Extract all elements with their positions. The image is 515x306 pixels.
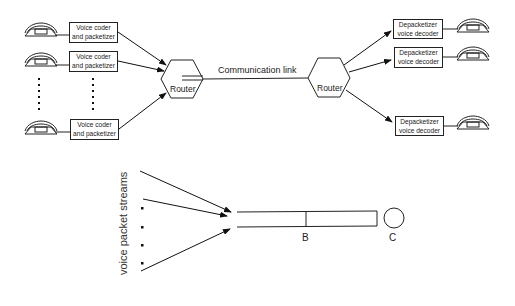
server-label-c: C (389, 232, 396, 243)
ingress-router-label: Router (170, 84, 196, 94)
stream-ellipsis-dots (141, 207, 144, 265)
depacketizer-decoder-box: Depacketizer voice decoder (395, 116, 444, 136)
queue-buffer (237, 211, 377, 227)
server-circle (384, 208, 404, 228)
voice-coder-packetizer-box: Voice coder and packetizer (69, 51, 118, 72)
telephone-icon (25, 23, 57, 36)
depacketizer-decoder-box: Depacketizer voice decoder (393, 19, 443, 39)
voice-packet-streams-label: voice packet streams (117, 172, 129, 275)
diagram-canvas (0, 0, 515, 306)
communication-link-line (203, 78, 308, 79)
telephone-icon (457, 116, 489, 129)
ellipsis-dots-middle (92, 78, 94, 110)
egress-router-label: Router (317, 83, 343, 93)
telephone-icon (25, 121, 57, 134)
depacketizer-decoder-box: Depacketizer voice decoder (394, 47, 443, 68)
voice-coder-packetizer-box: Voice coder and packetizer (69, 22, 118, 43)
communication-link-label: Communication link (218, 65, 297, 75)
buffer-label-b: B (302, 232, 309, 243)
telephone-icon (25, 53, 57, 66)
telephone-icon (457, 47, 489, 60)
voice-coder-packetizer-box: Voice coder and packetizer (70, 119, 119, 140)
ellipsis-dots-left (38, 78, 40, 110)
telephone-icon (457, 19, 489, 32)
